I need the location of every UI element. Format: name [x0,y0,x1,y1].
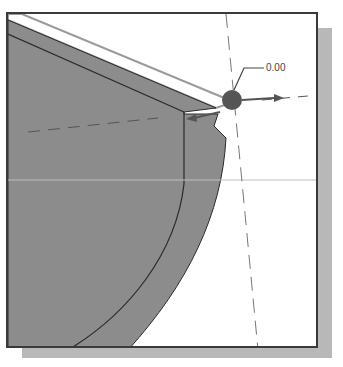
model-face [8,20,226,348]
vertical-centerline [226,14,258,348]
drag-handle[interactable] [222,90,242,110]
dimension-leader [234,68,264,90]
cad-viewport[interactable]: 0.00 [6,12,318,348]
dimension-value-label[interactable]: 0.00 [266,62,285,73]
right-arrow-head[interactable] [274,94,284,102]
